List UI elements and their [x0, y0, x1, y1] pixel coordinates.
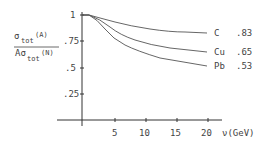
- y-tick-label: 1: [70, 10, 75, 20]
- x-axis-label: ν(GeV): [222, 128, 255, 138]
- y-tick-label: .5: [65, 63, 76, 73]
- svg-text:Aσ: Aσ: [15, 48, 26, 58]
- svg-text:tot: tot: [21, 37, 34, 45]
- series-value-pb: .53: [236, 61, 252, 71]
- series-label-c: C: [214, 28, 219, 38]
- y-tick-label: .25: [63, 89, 79, 99]
- y-tick-label: .75: [63, 36, 79, 46]
- svg-text:tot: tot: [27, 55, 40, 63]
- series-label-pb: Pb: [214, 61, 225, 71]
- y-axis-label: σ tot (A) Aσ tot (N): [14, 31, 59, 63]
- chart: 1 .75 .5 .25 5 10 15 20 ν(GeV) σ tot (A)…: [0, 0, 270, 146]
- svg-text:(A): (A): [35, 31, 48, 39]
- series-line-cu: [82, 15, 207, 52]
- svg-text:(N): (N): [41, 49, 54, 57]
- series-value-cu: .65: [236, 47, 252, 57]
- series-value-c: .83: [236, 28, 252, 38]
- y-ticks: 1 .75 .5 .25: [63, 10, 84, 99]
- x-tick-label: 5: [112, 128, 117, 138]
- x-tick-label: 20: [201, 128, 212, 138]
- series-label-cu: Cu: [214, 47, 225, 57]
- svg-text:σ: σ: [14, 31, 19, 41]
- x-tick-label: 10: [139, 128, 150, 138]
- x-tick-label: 15: [170, 128, 181, 138]
- x-ticks: 5 10 15 20 ν(GeV): [112, 118, 255, 138]
- series-line-pb: [82, 15, 207, 66]
